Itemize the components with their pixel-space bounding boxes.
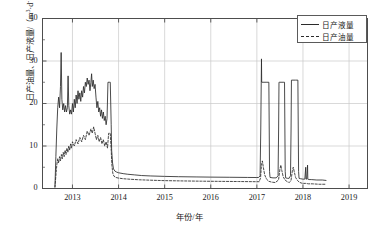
x-tick-label: 2017 [239,193,275,202]
x-tick-label: 2018 [285,193,321,202]
legend-line-solid-icon [301,20,319,28]
x-tick-label: 2016 [193,193,229,202]
y-tick-label: 0 [14,183,38,192]
y-axis-label-sup-day: -1 [25,0,31,3]
x-tick-label: 2013 [54,193,90,202]
data-series [55,53,326,188]
y-tick-label: 30 [14,56,38,65]
gridlines [43,19,368,189]
series-line-liquid [55,53,326,187]
x-axis-label: 年份/年 [0,210,379,222]
x-tick-label: 2019 [331,193,367,202]
y-axis-label-mid: ·d [26,3,35,10]
legend-item-oil: 日产油量 [301,30,363,42]
y-tick-label: 10 [14,141,38,150]
y-tick-label: 20 [14,98,38,107]
legend-line-dashed-icon [301,32,319,40]
legend-label-liquid: 日产液量 [322,19,354,30]
legend-label-oil: 日产油量 [322,31,354,42]
x-tick-label: 2015 [147,193,183,202]
y-tick-label: 40 [14,13,38,22]
legend-item-liquid: 日产液量 [301,18,363,30]
chart-figure: 日产油量、日产液量/（m3·d-1） 年份/年 010203040 201320… [0,0,379,239]
legend: 日产液量 日产油量 [297,15,367,43]
x-tick-label: 2014 [101,193,137,202]
